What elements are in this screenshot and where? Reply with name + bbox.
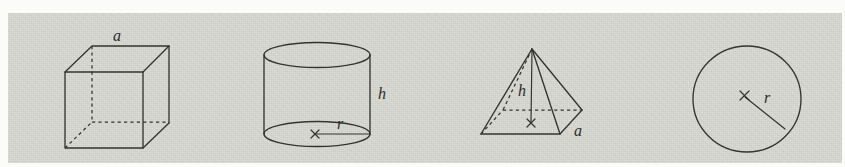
cube-bottom-right-back-edge: [143, 123, 169, 148]
shape-circle: r: [693, 46, 801, 152]
pyramid-lateral-edge-front-right: [532, 49, 560, 134]
cylinder-height-label-h: h: [378, 85, 386, 102]
circle-radius-label-r: r: [764, 89, 771, 106]
cylinder-radius-label-r: r: [337, 115, 344, 132]
cube-edge-label-a: a: [113, 27, 121, 44]
pyramid-lateral-edge-back-right: [532, 49, 582, 110]
pyramid-hidden-base-edge-back-left: [481, 110, 503, 134]
figure-drawing-canvas: a h r: [0, 0, 845, 167]
shape-pyramid: h a: [481, 49, 582, 139]
pyramid-height-line: [531, 50, 532, 122]
cylinder-top-ellipse: [264, 43, 370, 68]
geometry-figure-image: a h r: [0, 0, 845, 167]
pyramid-hidden-lateral-edge-back-left: [503, 49, 532, 110]
cube-hidden-bottom-left-edge: [65, 122, 92, 148]
shape-cube: a: [65, 27, 169, 148]
cube-top-face-edges: [65, 46, 169, 72]
pyramid-base-edge-label-a: a: [574, 122, 582, 139]
pyramid-height-label-h: h: [518, 82, 526, 99]
cube-front-face-edges: [65, 72, 143, 148]
shape-cylinder: h r: [264, 43, 386, 147]
